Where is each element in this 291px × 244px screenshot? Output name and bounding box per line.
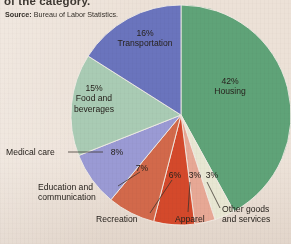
slice-label-recreation: Recreation — [96, 214, 152, 224]
slice-value-medical-care-wrap: 8% — [106, 147, 128, 157]
figure-page: of the category. Source: Bureau of Labor… — [0, 0, 291, 244]
slice-name-recreation: Recreation — [96, 214, 152, 224]
slice-name-other-line2: and services — [222, 214, 290, 224]
slice-name-transportation: Transportation — [104, 38, 186, 48]
slice-name-medical-care: Medical care — [6, 147, 70, 157]
slice-value-apparel-wrap: 3% — [186, 170, 204, 180]
slice-value-transportation: 16% — [104, 28, 186, 38]
slice-value-food: 15% — [58, 83, 130, 93]
slice-name-food-line2: beverages — [58, 104, 130, 114]
slice-value-recreation-wrap: 6% — [165, 170, 185, 180]
slice-value-recreation: 6% — [165, 170, 185, 180]
pie-chart: 42% Housing 16% Transportation 15% Food … — [0, 0, 291, 244]
slice-value-other-goods: 3% — [203, 170, 221, 180]
slice-name-apparel: Apparel — [175, 214, 215, 224]
slice-name-education-line2: communication — [38, 192, 124, 202]
slice-name-housing: Housing — [200, 86, 260, 96]
slice-value-education-wrap: 7% — [132, 163, 152, 173]
slice-label-medical-care: Medical care — [6, 147, 70, 157]
slice-value-other-goods-wrap: 3% — [203, 170, 221, 180]
slice-label-education-and-communication: Education and communication — [38, 182, 124, 203]
slice-label-other-goods-and-services: Other goods and services — [222, 204, 290, 225]
slice-label-transportation: 16% Transportation — [104, 28, 186, 49]
slice-value-medical-care: 8% — [106, 147, 128, 157]
slice-value-housing: 42% — [200, 76, 260, 86]
slice-name-other-line1: Other goods — [222, 204, 290, 214]
slice-name-food-line1: Food and — [58, 93, 130, 103]
slice-label-food-and-beverages: 15% Food and beverages — [58, 83, 130, 114]
slice-value-education: 7% — [132, 163, 152, 173]
slice-label-housing: 42% Housing — [200, 76, 260, 97]
slice-label-apparel: Apparel — [175, 214, 215, 224]
slice-name-education-line1: Education and — [38, 182, 124, 192]
slice-value-apparel: 3% — [186, 170, 204, 180]
